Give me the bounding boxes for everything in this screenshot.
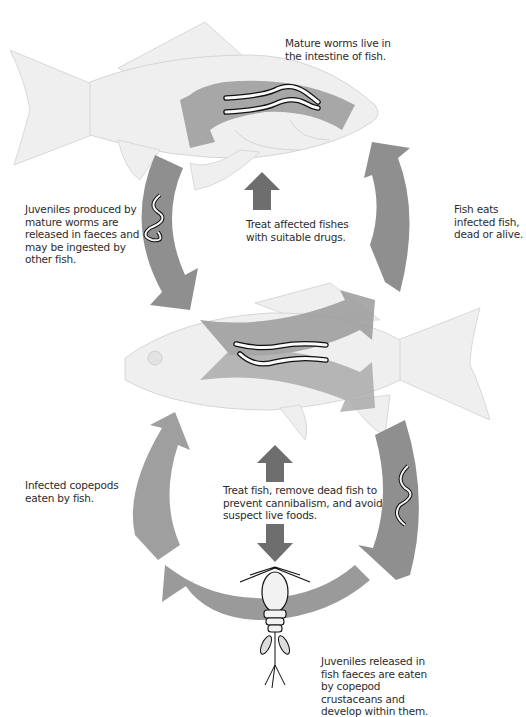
- treatment-up-arrow: [244, 172, 280, 210]
- label-treat-affected: Treat affected fishes with suitable drug…: [246, 218, 348, 243]
- label-mature-worms: Mature worms live in the intestine of fi…: [285, 37, 391, 62]
- label-juveniles-produced: Juveniles produced by mature worms are r…: [25, 203, 139, 266]
- label-juveniles-released: Juveniles released in fish faeces are ea…: [321, 655, 428, 717]
- arrow-copepods-to-fish: [133, 412, 190, 560]
- label-treat-remove: Treat fish, remove dead fish to prevent …: [223, 484, 382, 522]
- life-cycle-diagram: [0, 0, 526, 717]
- label-fish-eats: Fish eats infected fish, dead or alive.: [454, 203, 523, 241]
- label-infected-copepods: Infected copepods eaten by fish.: [25, 479, 118, 504]
- arrow-fish-eats-fish: [364, 142, 410, 292]
- copepod-icon: [240, 567, 310, 688]
- arrow-juveniles-to-fish: [142, 155, 198, 310]
